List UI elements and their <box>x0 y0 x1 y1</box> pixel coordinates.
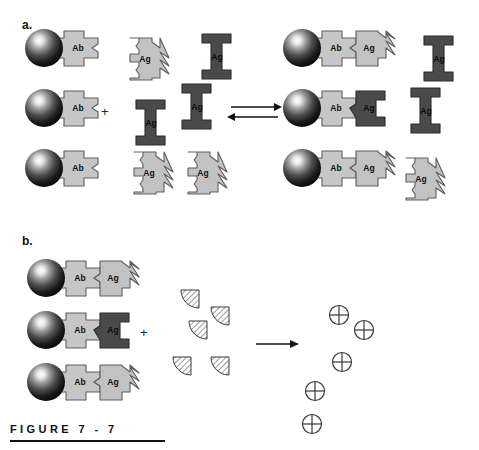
panel-b-reagent-wedge-1 <box>181 290 199 308</box>
figure-caption: FIGURE 7 - 7 <box>10 423 117 435</box>
panel-b-product-symbol-1 <box>330 306 349 325</box>
panel-b-reaction-arrow <box>256 340 299 348</box>
panel-b-reagent-wedge-2 <box>211 307 229 325</box>
bead-sphere <box>27 363 65 401</box>
panel-a-equilibrium-arrow <box>227 103 282 121</box>
panel-a-free-antibody-3: Ab <box>25 149 98 187</box>
bead-sphere <box>25 89 63 127</box>
panel-a-complex-1: Ab Ag <box>283 29 395 67</box>
panel-b-reagent-wedge-5 <box>211 357 229 375</box>
panel-a-free-antibody-2: Ab <box>25 89 98 127</box>
bead-sphere <box>283 89 321 127</box>
bead-sphere <box>283 29 321 67</box>
panel-a-unbound-antigen-1: Ag <box>424 36 453 81</box>
panel-a-free-antigen-4: Ag <box>136 100 165 145</box>
bead-sphere <box>27 311 65 349</box>
bead-sphere <box>27 259 65 297</box>
panel-a-unbound-antigen-3: Ag <box>406 158 445 200</box>
panel-a-free-antigen-3: Ag <box>182 84 211 129</box>
panel-a-free-antigen-2: Ag <box>202 34 231 79</box>
panel-a-free-antigen-5: Ag <box>134 152 173 194</box>
figure-caption-rule <box>10 440 165 442</box>
bead-sphere <box>25 29 63 67</box>
panel-b-complex-3: Ab Ag <box>27 363 139 401</box>
panel-b-product-symbol-5 <box>303 415 322 434</box>
panel-b-product-symbol-4 <box>306 382 325 401</box>
panel-a-unbound-antigen-2: Ag <box>411 88 440 133</box>
panel-a-free-antibody-1: Ab <box>25 29 98 67</box>
figure-canvas: a. b. + + <box>0 0 479 450</box>
panel-a-free-antigen-1: Ag <box>130 38 169 80</box>
bead-sphere <box>283 149 321 187</box>
bead-sphere <box>25 149 63 187</box>
panel-b-product-symbol-3 <box>333 353 352 372</box>
panel-a-complex-2: Ab Ag <box>283 89 385 127</box>
panel-b-reagent-wedge-3 <box>189 321 207 339</box>
panel-b-reagent-wedge-4 <box>173 357 191 375</box>
panel-b-complex-1: Ab Ag <box>27 259 139 297</box>
panel-a-free-antigen-6: Ag <box>188 152 227 194</box>
panel-b-complex-2: Ab Ag <box>27 311 129 349</box>
panel-a-complex-3: Ab Ag <box>283 149 395 187</box>
panel-b-product-symbol-2 <box>355 321 374 340</box>
figure-graphics: Ab Ab Ab Ag Ag Ag <box>0 0 479 450</box>
